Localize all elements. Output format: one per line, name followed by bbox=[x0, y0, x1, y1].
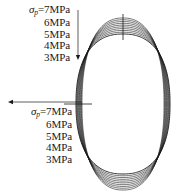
pressure-value: 7MPa bbox=[46, 105, 72, 117]
pressure-value: 7MPa bbox=[44, 3, 70, 15]
pressure-curve bbox=[81, 22, 166, 187]
sigma-symbol: σp bbox=[29, 3, 38, 15]
downward-arrow-head bbox=[76, 55, 80, 60]
pressure-value: 5MPa bbox=[46, 130, 72, 142]
pressure-curve bbox=[80, 23, 166, 184]
pressure-value: 3MPa bbox=[44, 51, 70, 63]
label-row: 3MPa bbox=[46, 154, 72, 166]
top-pressure-label-group: σp=7MPa 6MPa 5MPa 4MPa 3MPa bbox=[6, 4, 70, 64]
bottom-pressure-label-group: σp=7MPa 6MPa 5MPa 4MPa 3MPa bbox=[6, 106, 72, 166]
pressure-value: 6MPa bbox=[46, 118, 72, 130]
pressure-curve bbox=[79, 25, 166, 183]
pressure-value: 5MPa bbox=[44, 28, 70, 40]
leftward-arrow-head bbox=[8, 100, 13, 104]
pressure-value: 6MPa bbox=[44, 16, 70, 28]
label-row: 3MPa bbox=[44, 52, 70, 64]
pressure-value: 3MPa bbox=[46, 153, 72, 165]
pressure-value: 4MPa bbox=[44, 39, 70, 51]
sigma-symbol: σp bbox=[31, 105, 40, 117]
figure-root: σp=7MPa 6MPa 5MPa 4MPa 3MPa σp=7MPa 6MPa… bbox=[0, 0, 190, 194]
pressure-value: 4MPa bbox=[46, 141, 72, 153]
